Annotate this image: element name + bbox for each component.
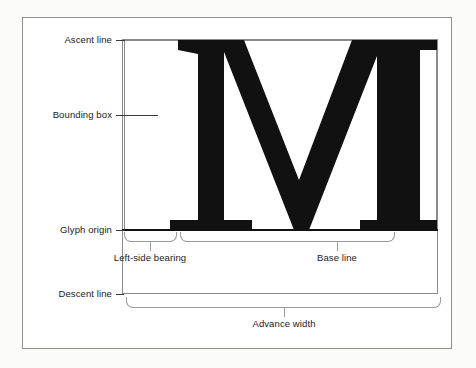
- label-glyph-origin: Glyph origin: [26, 224, 112, 235]
- glyph-m: [124, 40, 437, 230]
- leader-ascent-line: [116, 40, 125, 41]
- bracket-left-side-bearing: [124, 232, 177, 242]
- label-ascent-line: Ascent line: [30, 34, 112, 45]
- bracket-advance-width: [126, 297, 441, 308]
- leader-descent-line: [116, 294, 124, 295]
- label-base-line: Base line: [299, 252, 375, 263]
- bracket-base-line: [180, 232, 395, 242]
- label-descent-line: Descent line: [26, 288, 112, 299]
- label-advance-width: Advance width: [224, 318, 344, 329]
- label-left-side-bearing: Left-side bearing: [100, 252, 200, 263]
- label-bounding-box: Bounding box: [18, 109, 112, 120]
- leader-bounding-box: [116, 115, 158, 116]
- tick-advance-width: [284, 308, 285, 317]
- diagram-page: Ascent line Bounding box Glyph origin De…: [0, 0, 476, 368]
- tick-left-side-bearing: [150, 242, 151, 251]
- leader-glyph-origin: [116, 230, 125, 231]
- baseline-rule: [122, 229, 438, 231]
- tick-base-line: [337, 242, 338, 251]
